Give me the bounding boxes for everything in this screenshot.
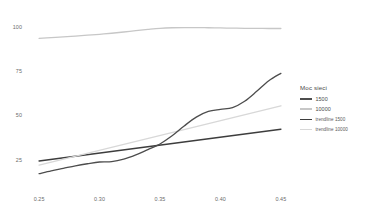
legend-item[interactable]: trendline 10000	[300, 126, 369, 133]
legend-color-swatch	[300, 98, 312, 100]
legend-item-label: 1500	[316, 96, 328, 102]
series-line-10000	[39, 28, 281, 39]
x-tick-label: 0.30	[85, 196, 115, 202]
y-tick-label: 100	[0, 24, 22, 30]
x-tick-label: 0.25	[24, 196, 54, 202]
trendlines-group	[39, 106, 281, 165]
y-tick-label: 50	[0, 112, 22, 118]
legend-color-swatch	[300, 108, 312, 110]
legend-item[interactable]: trendline 1500	[300, 116, 369, 123]
series-line-1500	[39, 73, 281, 173]
x-tick-label: 0.40	[205, 196, 235, 202]
legend-entries: 150010000trendline 1500trendline 10000	[300, 96, 369, 134]
legend-title: Moc sieci	[300, 84, 369, 91]
x-tick-label: 0.45	[266, 196, 296, 202]
x-tick-label: 0.35	[145, 196, 175, 202]
y-tick-label: 75	[0, 68, 22, 74]
trend-10000	[39, 106, 281, 165]
legend: Moc sieci 150010000trendline 1500trendli…	[300, 84, 369, 136]
legend-color-swatch	[300, 119, 312, 120]
legend-color-swatch	[300, 129, 312, 130]
legend-item-label: trendline 10000	[316, 127, 348, 132]
y-tick-label: 25	[0, 157, 22, 163]
legend-item-label: trendline 1500	[316, 117, 346, 122]
line-chart: 255075100 0.250.300.350.400.45 Moc sieci…	[0, 0, 369, 218]
legend-item[interactable]: 10000	[300, 106, 369, 113]
legend-item-label: 10000	[316, 106, 331, 112]
series-lines-group	[39, 28, 281, 174]
legend-item[interactable]: 1500	[300, 96, 369, 103]
